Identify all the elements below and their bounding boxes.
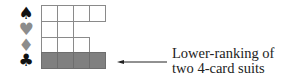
card-cell-shaded bbox=[73, 52, 90, 69]
spades-row bbox=[41, 5, 105, 21]
card-cell-shaded bbox=[57, 52, 74, 69]
card-cell bbox=[41, 5, 58, 22]
club-icon: ♣ bbox=[18, 52, 34, 68]
card-cell bbox=[73, 5, 90, 22]
card-cell bbox=[57, 5, 74, 22]
diamonds-row bbox=[41, 37, 89, 53]
card-cell bbox=[57, 21, 74, 38]
left-arrow-icon bbox=[117, 58, 167, 66]
card-cell bbox=[89, 5, 106, 22]
card-cell bbox=[41, 21, 58, 38]
clubs-row bbox=[41, 52, 105, 68]
hearts-row bbox=[41, 21, 73, 37]
annotation-line-1: Lower-ranking of bbox=[172, 45, 274, 61]
annotation-line-2: two 4-card suits bbox=[172, 60, 265, 76]
card-cell-shaded bbox=[41, 52, 58, 69]
card-cell-shaded bbox=[89, 52, 106, 69]
